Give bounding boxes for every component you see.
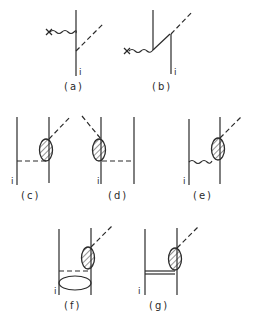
dashed-meson-line [49,116,71,139]
cross-marker-icon [46,29,52,35]
index-label: i [11,176,14,186]
diagram-label: (e) [193,190,213,201]
dashed-meson-line [177,227,198,248]
hatched-vertex-blob [169,248,182,270]
loop-ellipse [59,276,91,290]
index-label: i [183,176,186,186]
index-label: i [97,176,100,186]
diagram-label: (c) [21,190,40,201]
diagram-b: i (b) [124,10,193,92]
index-label: i [174,67,177,77]
diagram-label: (d) [108,190,128,201]
diagram-c: i (c) [11,116,71,201]
index-label: i [79,67,82,77]
dashed-meson-line [220,117,241,138]
feynman-diagrams-figure: i (a) i (b) i (c) i (d) [0,0,253,320]
hatched-vertex-blob [82,247,95,269]
diagram-d: i (d) [82,116,134,201]
diagram-label: (f) [64,300,81,311]
fermion-line-diagonal [153,34,170,50]
index-label: i [138,286,141,296]
dashed-meson-line [82,116,101,139]
diagram-label: (g) [149,300,169,311]
dashed-meson-line [76,24,103,51]
wavy-photon-line [189,161,212,164]
diagram-e: i (e) [183,117,241,201]
hatched-vertex-blob [212,138,225,160]
diagram-g: i (g) [138,227,198,311]
dashed-meson-line [91,226,112,247]
dashed-meson-line [171,11,193,34]
diagram-a: i (a) [46,10,103,92]
hatched-vertex-blob [93,139,106,161]
diagram-f: i (f) [54,226,112,311]
hatched-vertex-blob [40,139,53,161]
diagram-label: (a) [64,81,84,92]
diagram-label: (b) [152,81,172,92]
wavy-photon-line [50,31,76,34]
index-label: i [54,286,57,296]
wavy-photon-line [129,50,153,53]
